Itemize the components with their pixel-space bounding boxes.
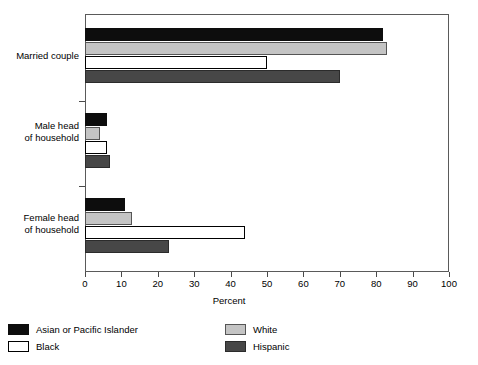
bar-female-head-white xyxy=(85,212,132,225)
x-axis-tick xyxy=(376,272,377,277)
y-axis-label-female-head-of-household: Female head of household xyxy=(24,212,79,235)
x-axis-tick-label: 90 xyxy=(407,278,418,289)
x-axis-tick xyxy=(413,272,414,277)
bar-female-head-asian-or-pacific-islander xyxy=(85,198,125,211)
x-axis-tick-label: 10 xyxy=(116,278,127,289)
bar-married-couple-hispanic xyxy=(85,70,340,83)
legend-swatch-icon-black xyxy=(8,341,29,352)
legend: Asian or Pacific Islander Black White Hi… xyxy=(8,322,468,358)
bar-chart-figure: Married couple Male head of household Fe… xyxy=(0,0,478,365)
x-axis-tick xyxy=(340,272,341,277)
legend-item-white: White xyxy=(225,322,277,336)
bar-married-couple-white xyxy=(85,42,387,55)
legend-swatch-icon-hispanic xyxy=(225,341,246,352)
legend-label-white: White xyxy=(253,324,277,335)
legend-item-hispanic: Hispanic xyxy=(225,339,289,353)
bar-female-head-black xyxy=(85,226,245,239)
x-axis-tick-label: 50 xyxy=(262,278,273,289)
bar-married-couple-black xyxy=(85,56,267,69)
x-axis-tick xyxy=(85,272,86,277)
x-axis-tick xyxy=(194,272,195,277)
bar-male-head-asian-or-pacific-islander xyxy=(85,113,107,126)
x-axis-tick xyxy=(121,272,122,277)
bar-male-head-black xyxy=(85,141,107,154)
x-axis-tick xyxy=(158,272,159,277)
legend-item-asian-or-pacific-islander: Asian or Pacific Islander xyxy=(8,322,138,336)
x-axis-tick-label: 30 xyxy=(189,278,200,289)
x-axis-tick-label: 40 xyxy=(225,278,236,289)
x-axis-tick-label: 70 xyxy=(335,278,346,289)
x-axis-tick-label: 20 xyxy=(153,278,164,289)
x-axis-tick xyxy=(231,272,232,277)
x-axis-tick-label: 0 xyxy=(82,278,87,289)
legend-label-asian-or-pacific-islander: Asian or Pacific Islander xyxy=(36,324,138,335)
y-axis-category-labels: Married couple Male head of household Fe… xyxy=(0,0,79,365)
bar-married-couple-asian-or-pacific-islander xyxy=(85,28,383,41)
x-axis-tick xyxy=(267,272,268,277)
legend-label-black: Black xyxy=(36,341,59,352)
bar-male-head-hispanic xyxy=(85,155,110,168)
x-axis-title-text: Percent xyxy=(213,295,246,306)
bar-male-head-white xyxy=(85,127,100,140)
legend-label-hispanic: Hispanic xyxy=(253,341,289,352)
x-axis-tick xyxy=(303,272,304,277)
legend-item-black: Black xyxy=(8,339,59,353)
x-axis-tick xyxy=(449,272,450,277)
bar-female-head-hispanic xyxy=(85,240,169,253)
x-axis-tick-label: 100 xyxy=(441,278,457,289)
y-axis-label-male-head-of-household: Male head of household xyxy=(25,120,79,143)
y-axis-label-married-couple: Married couple xyxy=(16,50,79,62)
legend-swatch-icon-white xyxy=(225,324,246,335)
x-axis-title: Percent xyxy=(0,295,478,306)
bars-layer xyxy=(85,14,449,272)
legend-swatch-icon-asian-or-pacific-islander xyxy=(8,324,29,335)
x-axis-tick-label: 80 xyxy=(371,278,382,289)
x-axis-tick-label: 60 xyxy=(298,278,309,289)
